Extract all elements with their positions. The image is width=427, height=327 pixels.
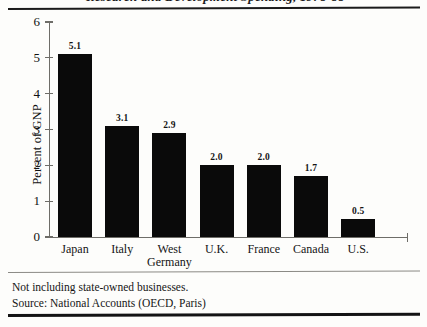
- x-axis-tick-label-line: U.S.: [328, 243, 388, 256]
- x-axis-tick-label: U.S.: [328, 243, 388, 256]
- bar: [294, 176, 328, 237]
- footnote-divider-thin: [8, 271, 420, 274]
- figure-title: Research and Development Spending, 1978-…: [86, 0, 345, 5]
- bar: [247, 165, 281, 237]
- bar-value-label: 1.7: [286, 163, 336, 173]
- x-axis-tick-label-line: Germany: [139, 256, 199, 269]
- footnote-block: Not including state-owned businesses. So…: [12, 279, 412, 311]
- bar: [105, 126, 139, 237]
- bar-value-label: 0.5: [333, 206, 383, 216]
- bar-value-label: 3.1: [97, 113, 147, 123]
- bar: [58, 54, 92, 237]
- footnote-divider-thick: [8, 313, 420, 317]
- x-axis-line: [49, 237, 408, 238]
- bar-chart: Percent of GNP 0123456 5.13.12.92.02.01.…: [0, 9, 427, 271]
- bar-value-label: 5.1: [50, 41, 100, 51]
- bar: [200, 165, 234, 237]
- bar-value-label: 2.9: [144, 120, 194, 130]
- bar: [341, 219, 375, 237]
- footnote-source: Source: National Accounts (OECD, Paris): [12, 295, 412, 311]
- bar-value-label: 2.0: [192, 152, 242, 162]
- bars-layer: 5.13.12.92.02.01.70.5: [0, 9, 427, 237]
- bar: [152, 133, 186, 237]
- bar-value-label: 2.0: [239, 152, 289, 162]
- footnote-note: Not including state-owned businesses.: [12, 279, 412, 295]
